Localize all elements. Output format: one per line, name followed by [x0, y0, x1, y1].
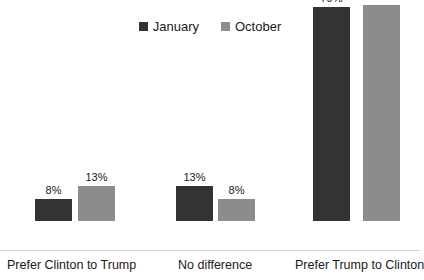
bar-rect: [176, 186, 213, 221]
bar-value-label: 80%: [370, 0, 392, 2]
bar-january-1[interactable]: 13%: [176, 186, 213, 221]
bar-october-0[interactable]: 13%: [78, 186, 115, 221]
category-label-0: Prefer Clinton to Trump: [7, 258, 136, 272]
bar-value-label: 79%: [320, 0, 342, 4]
bar-value-label: 8%: [229, 185, 245, 196]
bar-value-label: 13%: [183, 172, 205, 183]
category-label-1: No difference: [178, 258, 252, 272]
bar-rect: [363, 5, 400, 221]
bar-rect: [218, 199, 255, 221]
bar-rect: [313, 7, 350, 221]
bar-rect: [35, 199, 72, 221]
bar-value-label: 8%: [46, 185, 62, 196]
category-label-2: Prefer Trump to Clinton: [295, 258, 424, 272]
bar-rect: [78, 186, 115, 221]
axis-baseline: [0, 250, 420, 251]
bar-january-0[interactable]: 8%: [35, 199, 72, 221]
plot-area: 8% 13% 13% 8% 79% 80%: [0, 0, 420, 251]
bar-october-2[interactable]: 80%: [363, 5, 400, 221]
bar-january-2[interactable]: 79%: [313, 7, 350, 221]
bar-value-label: 13%: [85, 172, 107, 183]
bar-october-1[interactable]: 8%: [218, 199, 255, 221]
